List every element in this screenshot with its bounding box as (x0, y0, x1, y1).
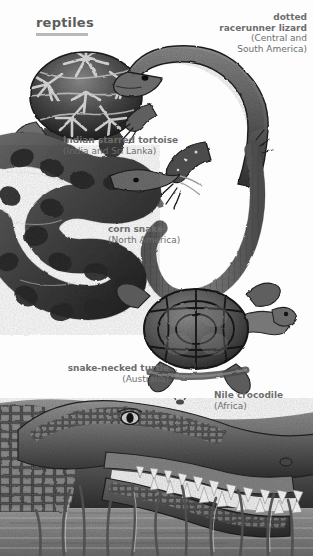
caption-name-line2: racerunner lizard (219, 23, 307, 34)
page-title: reptiles (36, 16, 94, 30)
plate-title-group: reptiles (36, 16, 94, 36)
caption-nile-crocodile: Nile crocodile (Africa) (214, 390, 283, 411)
caption-name: corn snake (108, 224, 180, 235)
caption-corn-snake: corn snake (North America) (108, 224, 180, 245)
illustration-dotted-racerunner-lizard (114, 40, 273, 298)
caption-dotted-racerunner-lizard: dotted racerunner lizard (Central and So… (219, 12, 307, 54)
caption-region: (India and Sri Lanka) (63, 146, 178, 157)
illustration-nile-crocodile (0, 393, 313, 556)
caption-name: snake-necked turtle (68, 363, 169, 374)
caption-region-line1: (Central and (219, 33, 307, 44)
caption-name: Nile crocodile (214, 390, 283, 401)
caption-region: (Africa) (214, 401, 283, 412)
caption-indian-starred-tortoise: Indian starred tortoise (India and Sri L… (63, 135, 178, 156)
reptiles-plate: reptiles dotted racerunner lizard (Centr… (0, 0, 313, 556)
caption-region-line2: South America) (219, 44, 307, 55)
caption-region: (Australia) (68, 374, 169, 385)
title-underline (36, 33, 88, 36)
caption-name: Indian starred tortoise (63, 135, 178, 146)
caption-region: (North America) (108, 235, 180, 246)
caption-snake-necked-turtle: snake-necked turtle (Australia) (68, 363, 169, 384)
illustration-layer (0, 0, 313, 556)
caption-name-line1: dotted (219, 12, 307, 23)
